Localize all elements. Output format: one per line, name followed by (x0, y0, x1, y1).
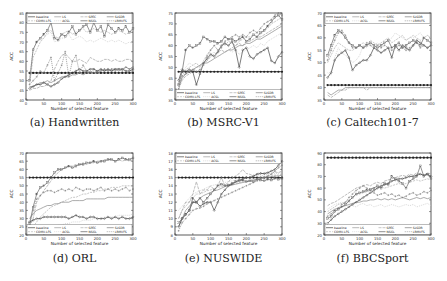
series-line-ls (179, 26, 282, 87)
x-tick-label: 0 (323, 236, 326, 241)
y-tick-label: 12 (168, 200, 173, 205)
data-point (61, 64, 63, 66)
data-point (334, 84, 336, 86)
data-point (344, 84, 346, 86)
data-point (380, 193, 382, 195)
data-point (78, 177, 80, 179)
legend-label: ACSL (211, 95, 219, 99)
data-point (337, 84, 339, 86)
series-line-ls (179, 175, 282, 227)
x-tick-label: 50 (339, 101, 344, 106)
chart-panel-nuswide: 89101112131415161718050100150200250300Nu… (149, 140, 298, 280)
y-tick-label: 55 (19, 175, 24, 180)
series-line-slsdr (30, 158, 133, 224)
data-point (401, 197, 403, 199)
y-tick-label: 45 (19, 88, 24, 93)
data-point (380, 157, 382, 159)
x-tick-label: 300 (427, 236, 435, 241)
data-point (409, 157, 411, 159)
x-axis-label: Number of selected feature (200, 241, 258, 246)
x-tick-label: 50 (41, 236, 46, 241)
data-point (36, 76, 38, 78)
data-point (423, 191, 425, 193)
data-point (227, 71, 229, 73)
y-tick-label: 40 (19, 98, 24, 103)
data-point (177, 71, 179, 73)
series-line-lrmvfs (328, 186, 431, 217)
data-point (132, 72, 134, 74)
x-tick-label: 300 (129, 236, 137, 241)
data-point (334, 157, 336, 159)
y-tick-label: 17 (168, 159, 173, 164)
chart-panel-msrc-v1: 354045505560657075050100150200250300Numb… (149, 0, 298, 140)
data-point (195, 177, 197, 179)
data-point (245, 185, 247, 187)
data-point (330, 49, 332, 51)
y-tick-label: 30 (19, 216, 24, 221)
y-tick-label: 55 (19, 69, 24, 74)
data-point (118, 68, 120, 70)
data-point (401, 157, 403, 159)
y-tick-label: 70 (317, 11, 322, 16)
data-point (366, 157, 368, 159)
data-point (391, 157, 393, 159)
legend-label: NSGL (238, 95, 246, 99)
legend-label: COMV-LFS (36, 230, 51, 234)
data-point (362, 84, 364, 86)
data-point (114, 177, 116, 179)
y-tick-label: 70 (168, 21, 173, 26)
series-line-acsl (328, 33, 431, 75)
y-axis-label: ACC (307, 52, 312, 61)
data-point (71, 177, 73, 179)
data-point (185, 218, 187, 220)
data-point (384, 157, 386, 159)
data-point (89, 188, 91, 190)
data-point (351, 157, 353, 159)
data-point (394, 157, 396, 159)
y-tick-label: 60 (19, 167, 24, 172)
y-tick-label: 25 (19, 224, 24, 229)
data-point (121, 188, 123, 190)
chart-handwritten: 40455055606570758085050100150200250300Nu… (0, 0, 149, 115)
data-point (416, 84, 418, 86)
data-point (224, 71, 226, 73)
data-point (355, 84, 357, 86)
data-point (281, 14, 283, 16)
data-point (405, 157, 407, 159)
caption-caltech101-7: (c) Caltech101-7 (298, 116, 447, 129)
data-point (107, 177, 109, 179)
y-axis-label: ACC (158, 52, 163, 61)
data-point (202, 177, 204, 179)
data-point (430, 189, 432, 191)
data-point (100, 177, 102, 179)
y-tick-label: 10 (168, 216, 173, 221)
data-point (419, 84, 421, 86)
data-point (202, 71, 204, 73)
data-point (430, 84, 432, 86)
data-point (206, 71, 208, 73)
y-axis-label: ACC (158, 190, 163, 199)
data-point (64, 51, 66, 53)
y-tick-label: 40 (19, 200, 24, 205)
data-point (249, 183, 251, 185)
caption-msrc-v1: (b) MSRC-V1 (149, 116, 298, 129)
data-point (267, 21, 269, 23)
chart-orl: 2025303540455055606570050100150200250300… (0, 140, 149, 250)
data-point (57, 177, 59, 179)
caption-handwritten: (a) Handwritten (0, 116, 149, 129)
y-tick-label: 50 (317, 197, 322, 202)
data-point (118, 72, 120, 74)
data-point (398, 157, 400, 159)
y-tick-label: 65 (19, 49, 24, 54)
data-point (409, 84, 411, 86)
y-tick-label: 65 (317, 23, 322, 28)
data-point (220, 196, 222, 198)
data-point (111, 190, 113, 192)
y-tick-label: 50 (19, 78, 24, 83)
x-tick-label: 50 (190, 236, 195, 241)
y-tick-label: 45 (19, 192, 24, 197)
y-tick-label: 85 (19, 11, 24, 16)
y-tick-label: 13 (168, 192, 173, 197)
data-point (227, 177, 229, 179)
data-point (103, 177, 105, 179)
